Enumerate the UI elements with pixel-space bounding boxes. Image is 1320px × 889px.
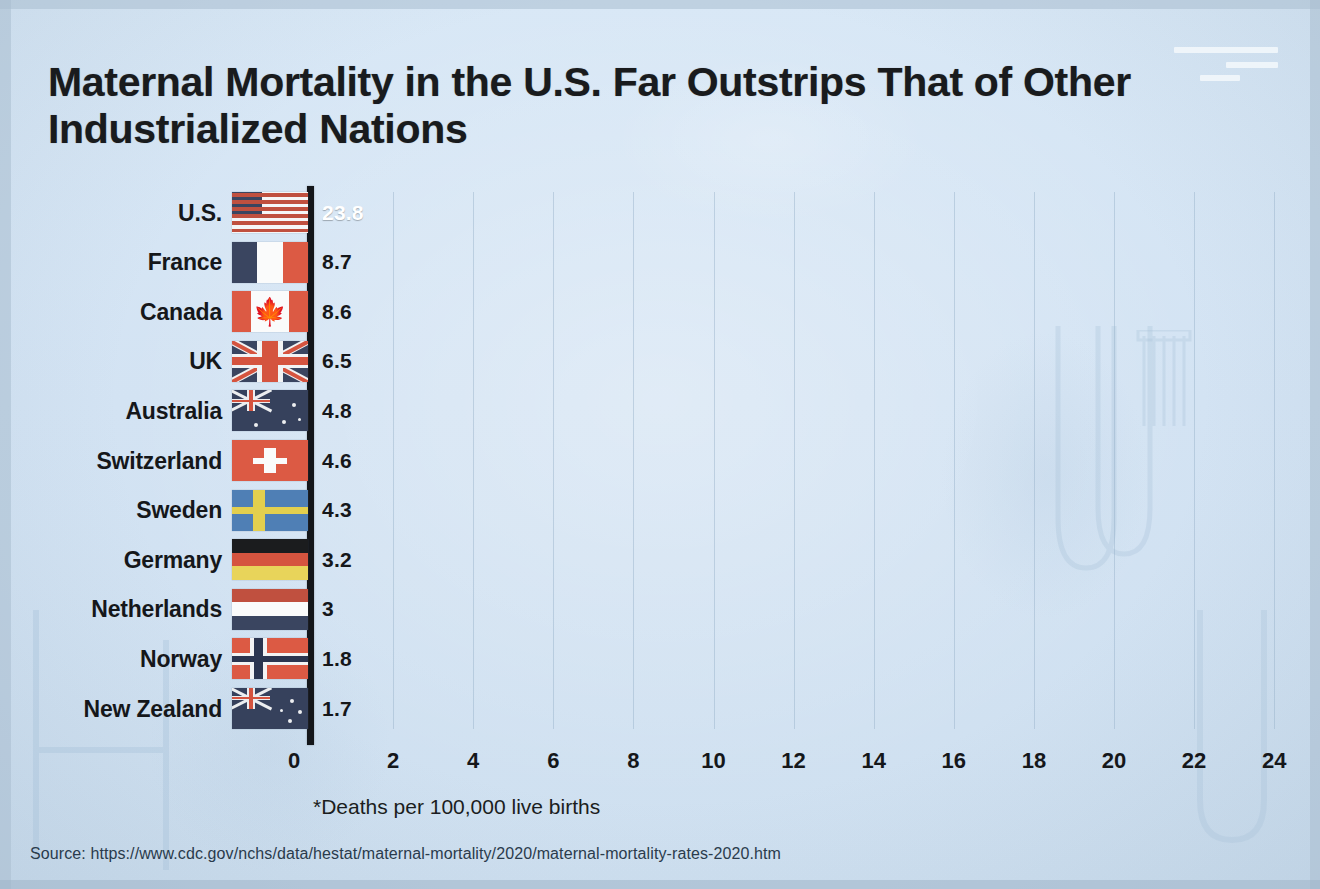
country-label-text: Canada (140, 298, 222, 325)
bar-value-label: 4.3 (322, 498, 352, 522)
country-label-sweden: Sweden (0, 490, 222, 531)
flag-canada-icon: 🍁 (232, 291, 308, 332)
country-label-australia: Australia (0, 390, 222, 431)
x-tick-16: 16 (942, 748, 966, 774)
bar-row[interactable]: 8.7 (313, 242, 661, 283)
bar-row[interactable]: 6.5 (313, 341, 573, 382)
x-tick-8: 8 (627, 748, 639, 774)
bar-row[interactable]: 23.8 (313, 192, 1266, 233)
bar-value-label: 6.5 (322, 349, 352, 373)
country-label-norway: Norway (0, 638, 222, 679)
gridline (1194, 192, 1195, 729)
country-label-canada: Canada (0, 291, 222, 332)
country-label-text: Norway (140, 645, 222, 672)
photo-edge (0, 0, 1320, 9)
country-label-text: U.S. (178, 199, 222, 226)
country-label-text: Germany (124, 546, 222, 573)
country-label-netherlands: Netherlands (0, 589, 222, 630)
gridline (1034, 192, 1035, 729)
bar-row[interactable]: 4.6 (313, 440, 497, 481)
country-label-switzerland: Switzerland (0, 440, 222, 481)
slide-photo: Maternal Mortality in the U.S. Far Outst… (0, 0, 1320, 889)
bar-value-label: 1.8 (322, 647, 352, 671)
country-label-text: Sweden (136, 497, 222, 524)
flag-united-kingdom-icon (232, 341, 308, 382)
bar-value-label: 3.2 (322, 548, 352, 572)
x-tick-0: 0 (288, 748, 300, 774)
x-tick-22: 22 (1182, 748, 1206, 774)
gridline (1274, 192, 1275, 729)
bar-value-label: 1.7 (322, 697, 352, 721)
bar-row[interactable]: 3.2 (313, 539, 441, 580)
flag-norway-icon (232, 638, 308, 679)
country-label-new-zealand: New Zealand (0, 688, 222, 729)
bar-value-label: 3 (322, 597, 334, 621)
photo-edge (0, 880, 1320, 889)
bar-row[interactable]: 4.3 (313, 490, 485, 531)
bar-value-label: 8.6 (322, 300, 352, 324)
x-tick-2: 2 (387, 748, 399, 774)
country-label-text: Australia (125, 397, 222, 424)
x-tick-12: 12 (781, 748, 805, 774)
bar-row[interactable]: 4.8 (313, 390, 505, 431)
country-label-text: Netherlands (91, 596, 222, 623)
bar-value-label: 8.7 (322, 250, 352, 274)
bar-chart: U.S.23.8France8.7Canada🍁8.6UK6.5Australi… (0, 0, 1320, 889)
x-tick-20: 20 (1102, 748, 1126, 774)
bar-row[interactable]: 3 (313, 589, 433, 630)
country-label-uk: UK (0, 341, 222, 382)
gridline (714, 192, 715, 729)
x-tick-6: 6 (547, 748, 559, 774)
x-tick-24: 24 (1262, 748, 1286, 774)
flag-france-icon (232, 242, 308, 283)
flag-netherlands-icon (232, 589, 308, 630)
country-label-u-s-: U.S. (0, 192, 222, 233)
country-label-text: New Zealand (84, 695, 222, 722)
x-tick-4: 4 (467, 748, 479, 774)
bar-row[interactable]: 1.7 (313, 688, 381, 729)
x-axis-ticks: 024681012141618202224 (0, 748, 1320, 782)
flag-australia-icon (232, 390, 308, 431)
gridline (794, 192, 795, 729)
photo-edge (1310, 0, 1320, 889)
country-label-germany: Germany (0, 539, 222, 580)
bar-value-label: 4.8 (322, 399, 352, 423)
x-tick-14: 14 (861, 748, 885, 774)
bar-row[interactable]: 1.8 (313, 638, 385, 679)
bar-value-label: 23.8 (322, 201, 364, 225)
country-label-france: France (0, 242, 222, 283)
gridline (874, 192, 875, 729)
flag-new-zealand-icon (232, 688, 308, 729)
x-tick-18: 18 (1022, 748, 1046, 774)
flag-united-states-icon (232, 192, 308, 233)
bar-row[interactable]: 8.6 (313, 291, 657, 332)
country-label-text: Switzerland (96, 447, 222, 474)
bar-value-label: 4.6 (322, 449, 352, 473)
flag-germany-icon (232, 539, 308, 580)
flag-sweden-icon (232, 490, 308, 531)
gridline (954, 192, 955, 729)
gridline (1114, 192, 1115, 729)
flag-switzerland-icon (232, 440, 308, 481)
country-label-text: France (148, 249, 222, 276)
source-line: Source: https://www.cdc.gov/nchs/data/he… (30, 845, 781, 863)
footnote: *Deaths per 100,000 live births (313, 795, 600, 819)
photo-edge (0, 0, 11, 889)
country-label-text: UK (189, 348, 222, 375)
x-tick-10: 10 (701, 748, 725, 774)
